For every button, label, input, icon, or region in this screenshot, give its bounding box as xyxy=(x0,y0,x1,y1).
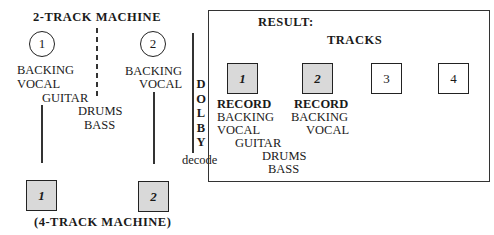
source-track-1-line-backing: BACKING xyxy=(17,63,74,77)
connector-line-1 xyxy=(41,105,43,163)
result-track-1-box: 1 xyxy=(227,63,258,94)
result-track-3-box: 3 xyxy=(371,63,402,94)
result-track-3-number: 3 xyxy=(383,71,390,87)
destination-track-2-box: 2 xyxy=(138,181,169,212)
middle-label-drums: DRUMS xyxy=(78,104,122,118)
result-track-1-number: 1 xyxy=(239,71,246,87)
result-track-1-line-bass: BASS xyxy=(268,162,299,176)
result-track-1-record-label: RECORD xyxy=(217,97,271,111)
destination-track-1-number: 1 xyxy=(38,188,45,204)
separator-dashed-line xyxy=(96,28,98,98)
source-track-2-circle: 2 xyxy=(140,31,166,57)
dolby-letter-b: B xyxy=(195,121,207,136)
result-track-1-line-guitar: GUITAR xyxy=(235,136,281,150)
dolby-left-line xyxy=(192,33,194,153)
source-track-2-number: 2 xyxy=(150,36,157,52)
source-track-2-line-vocal: VOCAL xyxy=(139,77,182,91)
result-track-2-line-backing: BACKING xyxy=(291,110,348,124)
result-track-4-number: 4 xyxy=(450,71,457,87)
dolby-letter-y: Y xyxy=(195,135,207,150)
diagram-title: 2-TRACK MACHINE xyxy=(33,10,161,25)
result-track-1-line-vocal: VOCAL xyxy=(217,123,260,137)
result-track-2-record-label: RECORD xyxy=(294,97,348,111)
connector-line-2 xyxy=(153,92,155,164)
source-track-2-line-backing: BACKING xyxy=(125,64,182,78)
dolby-letter-d: D xyxy=(195,77,207,92)
result-track-1-line-drums: DRUMS xyxy=(262,149,306,163)
result-track-2-box: 2 xyxy=(302,63,333,94)
source-track-1-line-vocal: VOCAL xyxy=(17,77,60,91)
result-track-4-box: 4 xyxy=(438,63,469,94)
result-track-1-line-backing: BACKING xyxy=(217,110,274,124)
result-title: RESULT: xyxy=(258,15,314,30)
middle-label-bass: BASS xyxy=(84,118,115,132)
result-track-2-line-vocal: VOCAL xyxy=(306,123,349,137)
dolby-letter-l: L xyxy=(195,106,207,121)
source-track-1-line-guitar: GUITAR xyxy=(42,91,88,105)
result-tracks-label: TRACKS xyxy=(327,33,382,48)
destination-track-1-box: 1 xyxy=(26,180,57,211)
source-track-1-circle: 1 xyxy=(29,31,55,57)
destination-track-2-number: 2 xyxy=(150,189,157,205)
dolby-letter-o: O xyxy=(195,92,207,107)
diagram-footer: (4-TRACK MACHINE) xyxy=(34,215,171,230)
source-track-1-number: 1 xyxy=(39,36,46,52)
dolby-label: D O L B Y xyxy=(195,77,207,150)
result-track-2-number: 2 xyxy=(314,71,321,87)
